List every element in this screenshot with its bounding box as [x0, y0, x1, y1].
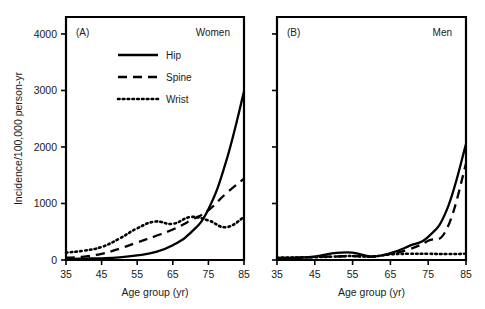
x-axis-title: Age group (yr): [338, 286, 405, 298]
legend: HipSpineWrist: [118, 50, 192, 105]
panel-a: 01000200030004000354555657585Age group (…: [34, 17, 250, 298]
x-tick-label: 35: [60, 268, 72, 280]
x-tick-label: 45: [309, 268, 321, 280]
x-tick-label: 65: [167, 268, 179, 280]
x-tick-label: 85: [460, 268, 472, 280]
chart-svg: 01000200030004000354555657585Age group (…: [0, 0, 485, 309]
series-line-hip: [277, 144, 466, 258]
panel-title: Women: [196, 27, 230, 38]
y-tick-label: 2000: [34, 141, 58, 153]
x-tick-label: 55: [347, 268, 359, 280]
x-tick-label: 55: [131, 268, 143, 280]
x-tick-label: 75: [422, 268, 434, 280]
y-tick-label: 1000: [34, 197, 58, 209]
x-tick-label: 65: [385, 268, 397, 280]
x-tick-label: 75: [203, 268, 215, 280]
y-tick-label: 3000: [34, 84, 58, 96]
figure-container: 01000200030004000354555657585Age group (…: [0, 0, 485, 309]
x-tick-label: 35: [271, 268, 283, 280]
panel-tag: (A): [76, 27, 89, 38]
x-axis-title: Age group (yr): [121, 286, 188, 298]
series-line-hip: [66, 92, 244, 259]
y-tick-label: 4000: [34, 28, 58, 40]
y-axis-title: Incidence/100,000 person-yr: [12, 71, 24, 205]
x-tick-label: 85: [238, 268, 250, 280]
x-tick-label: 45: [96, 268, 108, 280]
panel-frame: [277, 17, 466, 260]
legend-label-spine: Spine: [166, 72, 192, 83]
series-line-spine: [277, 164, 466, 258]
panel-tag: (B): [287, 27, 300, 38]
legend-label-wrist: Wrist: [166, 94, 189, 105]
y-tick-label: 0: [51, 254, 57, 266]
series-line-wrist: [66, 217, 244, 253]
panel-title: Men: [433, 27, 452, 38]
legend-label-hip: Hip: [166, 50, 181, 61]
panel-b: 354555657585Age group (yr)(B)Men: [271, 17, 472, 298]
